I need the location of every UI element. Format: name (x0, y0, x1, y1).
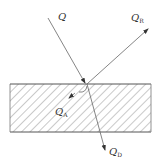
label-reflected: QR (131, 13, 144, 24)
label-transmitted-sub: D (117, 151, 122, 158)
incident-ray (48, 18, 85, 83)
label-absorbed-text: Q (55, 106, 63, 117)
label-incident: Q (58, 12, 66, 22)
label-transmitted: QD (109, 147, 122, 158)
medium-block (10, 84, 151, 132)
label-incident-text: Q (58, 11, 66, 22)
diagram: Q QR QA QD (0, 0, 168, 168)
reflected-ray (87, 29, 148, 84)
label-absorbed-sub: A (63, 111, 67, 118)
diagram-canvas (0, 0, 168, 168)
label-reflected-text: Q (131, 12, 139, 23)
label-reflected-sub: R (139, 17, 144, 24)
label-transmitted-text: Q (109, 146, 117, 157)
label-absorbed: QA (55, 107, 68, 118)
